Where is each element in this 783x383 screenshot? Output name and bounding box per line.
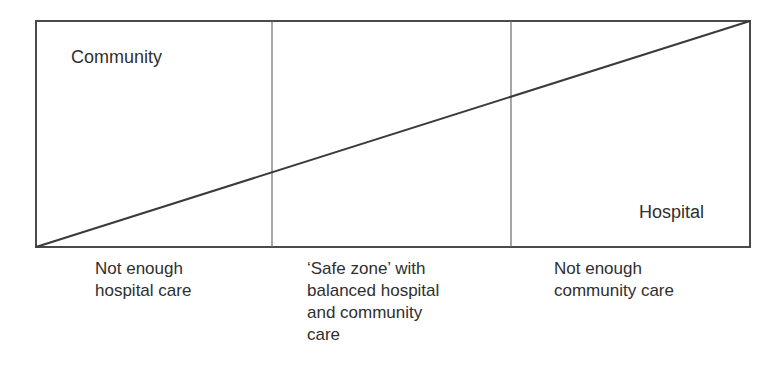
zone-label-line: care (307, 324, 439, 346)
zone-label-line: community care (554, 280, 674, 302)
zone-label-line: ‘Safe zone’ with (307, 258, 439, 280)
zone-label-line: hospital care (95, 280, 191, 302)
zone-label-not-enough-community: Not enough community care (554, 258, 674, 302)
zone-label-line: Not enough (95, 258, 191, 280)
zone-label-not-enough-hospital: Not enough hospital care (95, 258, 191, 302)
hospital-label: Hospital (639, 201, 704, 223)
community-label: Community (71, 46, 162, 68)
zone-label-safe-zone: ‘Safe zone’ with balanced hospital and c… (307, 258, 439, 346)
zone-label-line: balanced hospital (307, 280, 439, 302)
zone-label-line: Not enough (554, 258, 674, 280)
zone-label-line: and community (307, 302, 439, 324)
